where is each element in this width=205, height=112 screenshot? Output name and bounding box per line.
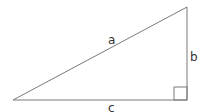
side-label-c: c xyxy=(108,101,115,112)
triangle-outline xyxy=(13,7,187,100)
right-angle-marker xyxy=(174,87,187,100)
right-triangle-diagram: a b c xyxy=(0,0,205,112)
side-label-b: b xyxy=(190,50,198,64)
side-label-a: a xyxy=(108,33,115,47)
